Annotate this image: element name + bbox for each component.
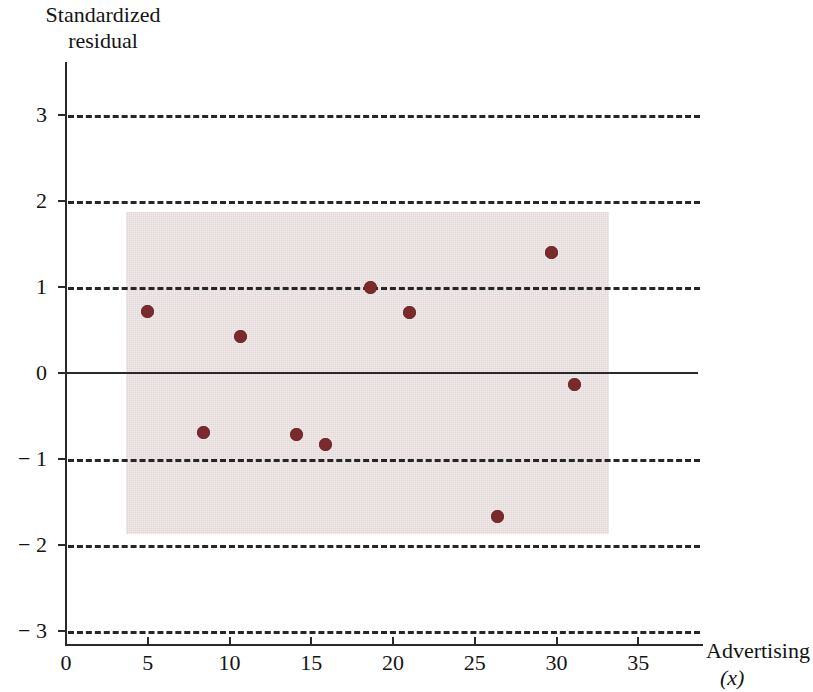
residual-plot-figure: Standardized residual 3210− 1− 2− 3 0510…	[0, 0, 813, 692]
gridline-neg1	[68, 459, 700, 462]
y-axis-label: Standardized residual	[8, 2, 198, 54]
y-tick-label: − 2	[18, 534, 47, 556]
y-tick-mark	[58, 372, 67, 374]
y-tick-mark	[58, 114, 67, 116]
gridline-2	[68, 201, 700, 204]
y-tick-mark	[58, 458, 67, 460]
x-tick-label: 25	[455, 652, 495, 674]
scatter-point	[290, 428, 303, 441]
y-tick-mark	[58, 200, 67, 202]
y-tick-mark	[58, 286, 67, 288]
x-tick-mark	[147, 637, 149, 646]
x-tick-label: 15	[291, 652, 331, 674]
x-tick-mark	[229, 637, 231, 646]
y-tick-label: − 1	[18, 448, 47, 470]
x-tick-mark	[637, 637, 639, 646]
y-tick-label: − 3	[18, 620, 47, 642]
x-axis-label: Advertising (x)	[706, 638, 810, 690]
scatter-point	[197, 426, 210, 439]
x-tick-mark	[474, 637, 476, 646]
x-tick-label: 0	[46, 652, 86, 674]
zero-reference-line	[66, 372, 698, 374]
y-tick-label: 0	[36, 362, 47, 384]
x-tick-mark	[310, 637, 312, 646]
gridline-3	[68, 115, 700, 118]
gridline-neg2	[68, 545, 700, 548]
x-axis-label-text: Advertising	[706, 638, 810, 663]
x-axis-label-variable: (x)	[720, 665, 810, 690]
y-axis-line	[65, 62, 67, 645]
y-tick-label: 1	[36, 276, 47, 298]
scatter-point	[364, 281, 377, 294]
gridline-neg3	[68, 631, 700, 634]
x-tick-label: 10	[210, 652, 250, 674]
x-tick-label: 20	[373, 652, 413, 674]
x-tick-label: 30	[537, 652, 577, 674]
x-axis-line	[65, 644, 703, 646]
x-tick-label: 35	[618, 652, 658, 674]
gridline-1	[68, 287, 700, 290]
x-tick-label: 5	[128, 652, 168, 674]
scatter-point	[568, 378, 581, 391]
x-tick-mark	[392, 637, 394, 646]
y-tick-label: 2	[36, 190, 47, 212]
y-tick-mark	[58, 544, 67, 546]
y-tick-label: 3	[36, 104, 47, 126]
y-tick-mark	[58, 630, 67, 632]
x-tick-mark	[556, 637, 558, 646]
